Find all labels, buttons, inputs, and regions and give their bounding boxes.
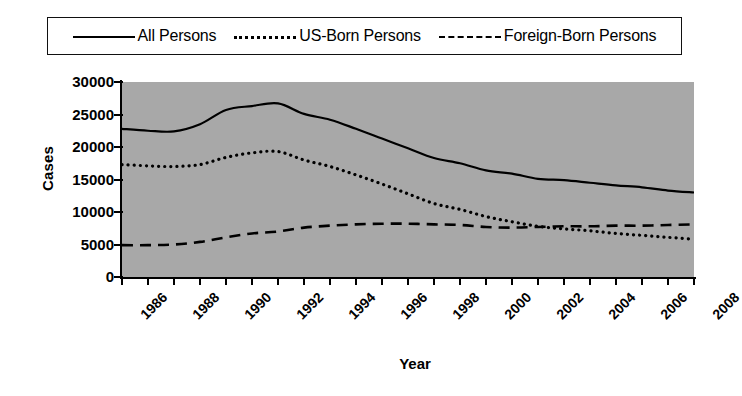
plot-area	[122, 82, 694, 277]
x-tick-label-1996: 1996	[397, 289, 430, 322]
x-tick-mark	[173, 277, 175, 285]
chart-legend: All Persons US-Born Persons Foreign-Born…	[47, 17, 682, 55]
legend-label-us-born-persons: US-Born Persons	[299, 27, 421, 45]
x-tick-label-2004: 2004	[605, 289, 638, 322]
x-tick-mark	[277, 277, 279, 285]
y-tick-mark	[114, 146, 123, 148]
x-tick-label-1994: 1994	[345, 289, 378, 322]
x-tick-mark	[407, 277, 409, 285]
x-tick-mark	[589, 277, 591, 285]
y-tick-label: 0	[18, 269, 114, 284]
x-tick-label-1992: 1992	[293, 289, 326, 322]
x-tick-mark	[199, 277, 201, 285]
y-tick-mark	[114, 244, 123, 246]
legend-entry-us-born-persons: US-Born Persons	[234, 27, 421, 45]
x-tick-mark	[251, 277, 253, 285]
y-axis-title: Cases	[39, 109, 56, 229]
x-tick-mark	[303, 277, 305, 285]
x-tick-mark	[433, 277, 435, 285]
y-tick-label: 30000	[18, 74, 114, 89]
legend-line-dotted-icon	[234, 30, 296, 42]
x-tick-mark	[485, 277, 487, 285]
x-tick-mark	[121, 277, 123, 285]
x-tick-label-2000: 2000	[501, 289, 534, 322]
x-tick-label-1998: 1998	[449, 289, 482, 322]
legend-label-all-persons: All Persons	[138, 27, 217, 45]
x-tick-label-2002: 2002	[553, 289, 586, 322]
y-tick-label: 25000	[18, 107, 114, 122]
legend-line-solid-icon	[73, 30, 135, 42]
y-tick-label: 15000	[18, 172, 114, 187]
legend-entry-foreign-born-persons: Foreign-Born Persons	[439, 27, 657, 45]
x-tick-mark	[511, 277, 513, 285]
x-tick-mark	[329, 277, 331, 285]
x-tick-label-2008: 2008	[709, 289, 742, 322]
x-tick-mark	[641, 277, 643, 285]
x-tick-mark	[459, 277, 461, 285]
legend-line-dashed-icon	[439, 30, 501, 42]
y-tick-label: 10000	[18, 204, 114, 219]
x-tick-mark	[563, 277, 565, 285]
x-tick-mark	[381, 277, 383, 285]
x-axis-title-text: Year	[399, 355, 431, 372]
legend-entry-all-persons: All Persons	[73, 27, 217, 45]
x-tick-mark	[147, 277, 149, 285]
y-tick-mark	[114, 81, 123, 83]
x-tick-mark	[355, 277, 357, 285]
x-tick-label-2006: 2006	[657, 289, 690, 322]
legend-label-foreign-born-persons: Foreign-Born Persons	[504, 27, 657, 45]
x-tick-label-1986: 1986	[137, 289, 170, 322]
y-tick-label: 20000	[18, 139, 114, 154]
x-tick-label-1990: 1990	[241, 289, 274, 322]
y-tick-mark	[114, 179, 123, 181]
y-tick-mark	[114, 211, 123, 213]
x-axis-title: Year	[0, 355, 730, 372]
y-tick-mark	[114, 114, 123, 116]
y-tick-label: 5000	[18, 237, 114, 252]
x-tick-mark	[667, 277, 669, 285]
x-tick-mark	[615, 277, 617, 285]
x-tick-mark	[693, 277, 695, 285]
x-tick-mark	[225, 277, 227, 285]
x-tick-mark	[537, 277, 539, 285]
x-tick-label-1988: 1988	[189, 289, 222, 322]
